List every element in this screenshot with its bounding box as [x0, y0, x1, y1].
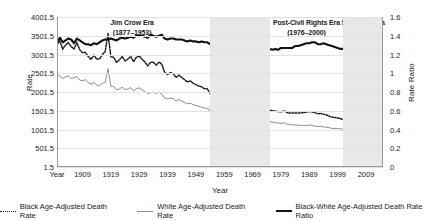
y-tick-left-3: 1501.5 — [16, 107, 54, 116]
y-tick-right-5: 1 — [390, 69, 394, 78]
gridline-8 — [57, 17, 383, 18]
legend-item-black-rate: Black Age-Adjusted Death Rate — [0, 202, 123, 220]
y-tick-left-2: 1001.5 — [16, 126, 54, 135]
y-tick-right-1: 0.2 — [390, 144, 400, 153]
axis-bottom — [57, 166, 383, 167]
gridline-2 — [57, 130, 383, 131]
axis-right — [382, 17, 383, 167]
legend-item-white-rate: White Age-Adjusted Death Rate — [137, 202, 261, 220]
gridline-0 — [57, 167, 383, 168]
gridline-3 — [57, 111, 383, 112]
plot-area — [57, 17, 383, 167]
dotted-line-swatch-icon — [0, 211, 16, 212]
legend-label-black-rate: Black Age-Adjusted Death Rate — [20, 202, 124, 220]
y-tick-left-8: 4001.5 — [16, 13, 54, 22]
chart-figure: Rate Rate Ratio Year 1.5501.51001.51501.… — [0, 0, 440, 221]
y-tick-left-4: 2001.5 — [16, 88, 54, 97]
y-tick-left-5: 2501.5 — [16, 69, 54, 78]
x-axis-label: Year — [57, 186, 383, 195]
x-tick-11: 2009 — [348, 170, 384, 179]
thick-line-swatch-icon — [276, 210, 292, 212]
y-tick-left-1: 501.5 — [16, 144, 54, 153]
legend: Black Age-Adjusted Death Rate White Age-… — [0, 202, 440, 220]
y-tick-right-2: 0.4 — [390, 126, 400, 135]
y-tick-right-4: 0.8 — [390, 88, 400, 97]
y-axis-label-right: Rate Ratio — [407, 53, 416, 113]
thin-line-swatch-icon — [137, 211, 153, 212]
gridline-5 — [57, 73, 383, 74]
gridline-4 — [57, 92, 383, 93]
legend-label-ratio: Black-White Age-Adjusted Death Rate Rati… — [296, 202, 440, 220]
y-tick-right-0: 0 — [390, 163, 394, 172]
legend-item-ratio: Black-White Age-Adjusted Death Rate Rati… — [276, 202, 440, 220]
axis-left — [57, 17, 58, 167]
y-tick-right-3: 0.6 — [390, 107, 400, 116]
gridline-1 — [57, 148, 383, 149]
y-tick-left-7: 3501.5 — [16, 32, 54, 41]
y-axis-label-left: Rate — [25, 53, 34, 113]
y-tick-left-6: 3001.5 — [16, 51, 54, 60]
y-tick-right-6: 1.2 — [390, 51, 400, 60]
legend-label-white-rate: White Age-Adjusted Death Rate — [157, 202, 262, 220]
gridline-6 — [57, 55, 383, 56]
gridline-7 — [57, 36, 383, 37]
